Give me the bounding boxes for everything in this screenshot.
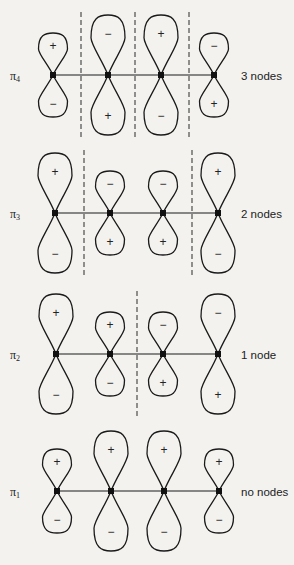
p-orbital-top-lobe: [38, 153, 72, 213]
p-orbital-bottom-lobe: [38, 213, 72, 273]
p-orbital-top-lobe: [39, 294, 73, 354]
orbital-label-pi2: π2: [10, 348, 20, 363]
p-orbital-bottom-lobe: [147, 491, 181, 551]
phase-sign-top: −: [210, 39, 217, 53]
carbon-atom-dot: [108, 488, 114, 494]
carbon-atom-dot: [216, 488, 222, 494]
p-orbital-top-lobe: [201, 153, 235, 213]
phase-sign-bottom: −: [107, 525, 114, 539]
carbon-atom-dot: [105, 72, 111, 78]
p-orbital-bottom-lobe: [94, 491, 128, 551]
carbon-atom-dot: [161, 488, 167, 494]
phase-sign-top: +: [106, 318, 113, 332]
orbital-row-pi1: +−+−+−+−π1no nodes: [10, 431, 289, 551]
node-count-label: 3 nodes: [241, 70, 282, 82]
phase-sign-top: +: [215, 455, 222, 469]
phase-sign-bottom: −: [52, 388, 59, 402]
phase-sign-bottom: −: [157, 109, 164, 123]
phase-sign-bottom: −: [106, 376, 113, 390]
phase-sign-top: +: [53, 455, 60, 469]
phase-sign-bottom: +: [214, 388, 221, 402]
p-orbital-bottom-lobe: [144, 75, 178, 135]
orbital-row-pi2: +−+−−+−+π21 node: [10, 291, 276, 417]
carbon-atom-dot: [158, 72, 164, 78]
p-orbital-bottom-lobe: [201, 213, 235, 273]
carbon-atom-dot: [215, 210, 221, 216]
p-orbital-top-lobe: [201, 294, 235, 354]
carbon-atom-dot: [50, 72, 56, 78]
orbital-label-pi3: π3: [10, 207, 20, 222]
carbon-atom-dot: [54, 488, 60, 494]
mo-diagram-svg: +−−++−−+π43 nodes+−−+−++−π32 nodes+−+−−+…: [0, 0, 294, 565]
carbon-atom-dot: [211, 72, 217, 78]
orbital-diagram: +−−++−−+π43 nodes+−−+−++−π32 nodes+−+−−+…: [0, 0, 294, 565]
orbital-label-pi4: π4: [10, 69, 20, 84]
orbital-row-pi3: +−−+−++−π32 nodes: [10, 150, 282, 276]
phase-sign-top: −: [159, 177, 166, 191]
node-count-label: no nodes: [241, 486, 289, 498]
phase-sign-top: +: [214, 165, 221, 179]
phase-sign-bottom: −: [49, 97, 56, 111]
phase-sign-bottom: −: [214, 247, 221, 261]
orbital-label-pi1: π1: [10, 485, 20, 500]
phase-sign-top: +: [51, 165, 58, 179]
phase-sign-top: +: [49, 39, 56, 53]
p-orbital-top-lobe: [147, 431, 181, 491]
p-orbital-top-lobe: [144, 15, 178, 75]
phase-sign-top: +: [107, 443, 114, 457]
phase-sign-top: +: [160, 443, 167, 457]
phase-sign-top: −: [106, 177, 113, 191]
phase-sign-bottom: −: [215, 513, 222, 527]
p-orbital-bottom-lobe: [201, 354, 235, 414]
carbon-atom-dot: [215, 351, 221, 357]
node-count-label: 1 node: [241, 349, 276, 361]
phase-sign-bottom: +: [106, 235, 113, 249]
phase-sign-bottom: +: [210, 97, 217, 111]
phase-sign-top: +: [52, 306, 59, 320]
carbon-atom-dot: [160, 351, 166, 357]
phase-sign-bottom: +: [159, 376, 166, 390]
phase-sign-bottom: +: [159, 235, 166, 249]
phase-sign-bottom: −: [51, 247, 58, 261]
carbon-atom-dot: [52, 210, 58, 216]
node-count-label: 2 nodes: [241, 208, 282, 220]
phase-sign-top: −: [104, 27, 111, 41]
carbon-atom-dot: [160, 210, 166, 216]
p-orbital-top-lobe: [94, 431, 128, 491]
p-orbital-bottom-lobe: [39, 354, 73, 414]
phase-sign-top: −: [214, 306, 221, 320]
carbon-atom-dot: [107, 351, 113, 357]
phase-sign-bottom: −: [160, 525, 167, 539]
p-orbital-top-lobe: [91, 15, 125, 75]
phase-sign-top: −: [159, 318, 166, 332]
carbon-atom-dot: [53, 351, 59, 357]
phase-sign-top: +: [157, 27, 164, 41]
p-orbital-bottom-lobe: [91, 75, 125, 135]
phase-sign-bottom: −: [53, 513, 60, 527]
phase-sign-bottom: +: [104, 109, 111, 123]
orbital-row-pi4: +−−++−−+π43 nodes: [10, 12, 282, 138]
carbon-atom-dot: [107, 210, 113, 216]
